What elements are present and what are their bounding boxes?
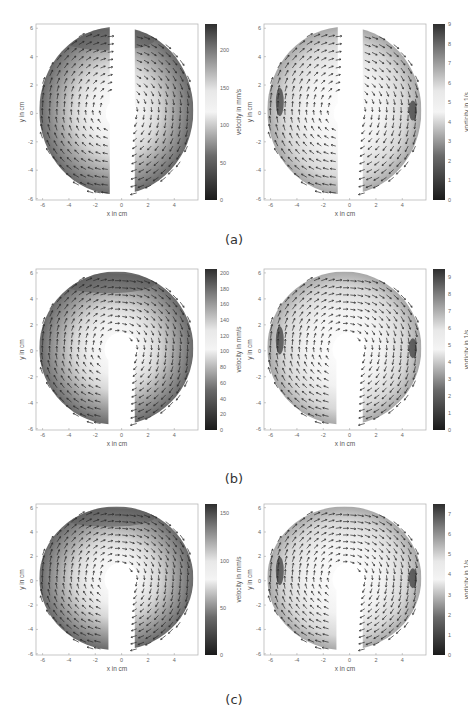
colorbar-tick-label: 3 bbox=[448, 376, 451, 382]
y-tick-label: -6 bbox=[256, 426, 261, 432]
colorbar-tick-label: 0 bbox=[220, 652, 223, 658]
colorbar-tick-label: 2 bbox=[448, 393, 451, 399]
y-tick-label: -4 bbox=[256, 167, 261, 173]
x-tick-label: -2 bbox=[321, 432, 326, 438]
y-tick-label: 0 bbox=[30, 348, 33, 354]
caption-c: (c) bbox=[0, 692, 468, 707]
colorbar-tick-label: 1 bbox=[448, 177, 451, 183]
panel-a-vorticity: -6-4-2024-6-4-20246x in cmy in cm0123456… bbox=[228, 0, 468, 225]
x-tick-label: 0 bbox=[120, 657, 123, 663]
colorbar bbox=[205, 269, 217, 430]
colorbar-tick-label: 7 bbox=[448, 511, 451, 517]
vector-field-plot: -6-4-2024-6-4-20246x in cmy in cm0123456… bbox=[228, 490, 468, 680]
colorbar-tick-label: 0 bbox=[220, 427, 223, 433]
colorbar-tick-label: 1 bbox=[448, 632, 451, 638]
x-tick-label: -2 bbox=[93, 202, 98, 208]
y-tick-label: 2 bbox=[30, 322, 33, 328]
colorbar-tick-label: 7 bbox=[448, 60, 451, 66]
colorbar-tick-label: 60 bbox=[220, 380, 226, 386]
x-tick-label: 0 bbox=[348, 202, 351, 208]
colorbar-tick-label: 2 bbox=[448, 612, 451, 618]
x-tick-label: 2 bbox=[374, 657, 377, 663]
colorbar-tick-label: 6 bbox=[448, 531, 451, 537]
y-tick-label: -2 bbox=[256, 374, 261, 380]
x-tick-label: -2 bbox=[321, 202, 326, 208]
colorbar-tick-label: 8 bbox=[448, 41, 451, 47]
colorbar bbox=[433, 269, 445, 430]
colorbar-label: vorticity in 1/s bbox=[463, 92, 468, 132]
colorbar-tick-label: 0 bbox=[448, 197, 451, 203]
vector-field-plot: -6-4-2024-6-4-20246x in cmy in cm0123456… bbox=[228, 255, 468, 455]
x-tick-label: 2 bbox=[374, 202, 377, 208]
x-tick-label: 2 bbox=[374, 432, 377, 438]
y-tick-label: 4 bbox=[258, 529, 261, 535]
x-tick-label: -6 bbox=[268, 432, 273, 438]
x-tick-label: 2 bbox=[146, 432, 149, 438]
colorbar-tick-label: 5 bbox=[448, 99, 451, 105]
y-tick-label: 6 bbox=[258, 270, 261, 276]
x-tick-label: 0 bbox=[120, 432, 123, 438]
y-tick-label: -2 bbox=[28, 374, 33, 380]
x-axis-label: x in cm bbox=[335, 210, 356, 217]
y-tick-label: 6 bbox=[258, 25, 261, 31]
x-tick-label: -4 bbox=[294, 432, 299, 438]
y-tick-label: 2 bbox=[30, 553, 33, 559]
colorbar-tick-label: 1 bbox=[448, 410, 451, 416]
colorbar-tick-label: 6 bbox=[448, 325, 451, 331]
colorbar-tick-label: 5 bbox=[448, 551, 451, 557]
colorbar-tick-label: 4 bbox=[448, 359, 451, 365]
colorbar-tick-label: 20 bbox=[220, 411, 226, 417]
x-tick-label: -4 bbox=[294, 202, 299, 208]
y-tick-label: -4 bbox=[28, 167, 33, 173]
y-tick-label: -2 bbox=[256, 139, 261, 145]
y-tick-label: -2 bbox=[28, 139, 33, 145]
vector-field-plot: -6-4-2024-6-4-20246x in cmy in cm0501001… bbox=[0, 0, 234, 225]
colorbar-tick-label: 80 bbox=[220, 364, 226, 370]
caption-b: (b) bbox=[0, 471, 468, 486]
y-tick-label: 6 bbox=[30, 25, 33, 31]
x-tick-label: 0 bbox=[348, 432, 351, 438]
colorbar-tick-label: 4 bbox=[448, 571, 451, 577]
y-axis-label: y in cm bbox=[18, 102, 26, 123]
y-tick-label: 6 bbox=[30, 505, 33, 511]
x-tick-label: 4 bbox=[401, 432, 404, 438]
vector-field-plot: -6-4-2024-6-4-20246x in cmy in cm0123456… bbox=[228, 0, 468, 225]
x-axis-label: x in cm bbox=[107, 440, 128, 447]
y-tick-label: 2 bbox=[258, 553, 261, 559]
x-axis-label: x in cm bbox=[107, 210, 128, 217]
y-tick-label: -6 bbox=[256, 196, 261, 202]
x-tick-label: -4 bbox=[66, 432, 71, 438]
y-tick-label: 2 bbox=[258, 82, 261, 88]
y-axis-label: y in cm bbox=[18, 339, 26, 360]
colorbar bbox=[205, 24, 217, 200]
panel-b-velocity: -6-4-2024-6-4-20246x in cmy in cm0204060… bbox=[0, 255, 234, 455]
y-tick-label: 4 bbox=[258, 54, 261, 60]
colorbar-label: vorticity in 1/s bbox=[463, 559, 468, 599]
y-tick-label: 0 bbox=[258, 348, 261, 354]
x-tick-label: -2 bbox=[93, 432, 98, 438]
y-tick-label: 4 bbox=[30, 54, 33, 60]
y-tick-label: -2 bbox=[256, 602, 261, 608]
colorbar-tick-label: 50 bbox=[220, 160, 226, 166]
y-tick-label: -6 bbox=[28, 196, 33, 202]
y-tick-label: 0 bbox=[258, 578, 261, 584]
y-tick-label: 0 bbox=[30, 578, 33, 584]
colorbar-tick-label: 4 bbox=[448, 119, 451, 125]
y-axis-label: y in cm bbox=[18, 569, 26, 590]
y-tick-label: 4 bbox=[30, 296, 33, 302]
x-axis-label: x in cm bbox=[335, 665, 356, 672]
y-tick-label: 0 bbox=[258, 110, 261, 116]
vector-field-plot: -6-4-2024-6-4-20246x in cmy in cm0501001… bbox=[0, 490, 234, 680]
y-tick-label: -4 bbox=[256, 626, 261, 632]
x-tick-label: -2 bbox=[321, 657, 326, 663]
y-axis-label: y in cm bbox=[246, 102, 254, 123]
colorbar-tick-label: 9 bbox=[448, 274, 451, 280]
x-tick-label: 0 bbox=[120, 202, 123, 208]
colorbar bbox=[433, 504, 445, 655]
x-tick-label: 2 bbox=[146, 202, 149, 208]
y-tick-label: 2 bbox=[258, 322, 261, 328]
y-tick-label: -4 bbox=[28, 400, 33, 406]
y-tick-label: -4 bbox=[256, 400, 261, 406]
colorbar bbox=[205, 504, 217, 655]
x-tick-label: -6 bbox=[40, 657, 45, 663]
